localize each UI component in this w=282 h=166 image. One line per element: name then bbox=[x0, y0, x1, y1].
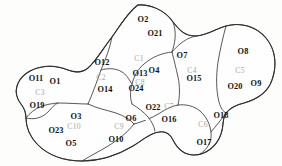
cluster-diagram: C1O2O21O13C2O12O14C3O11O1O19C4O7O15C5O8O… bbox=[0, 0, 282, 166]
diagram-canvas bbox=[0, 0, 282, 166]
